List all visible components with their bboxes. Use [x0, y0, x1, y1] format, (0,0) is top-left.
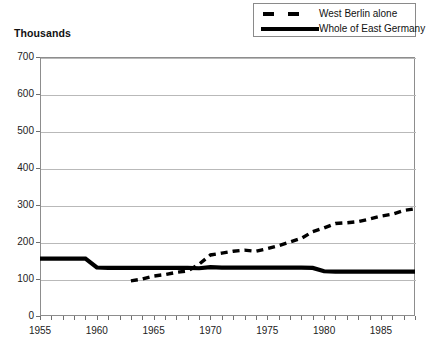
x-tick-minor	[358, 316, 359, 320]
x-tick-minor	[370, 316, 371, 320]
x-tick-minor	[233, 316, 234, 320]
y-tick-label: 600	[0, 88, 34, 99]
x-tick-minor	[40, 316, 41, 320]
x-tick-minor	[381, 316, 382, 320]
x-tick-minor	[210, 316, 211, 320]
chart-container: Thousands West Berlin alone Whole of Eas…	[0, 0, 427, 360]
x-tick-minor	[154, 316, 155, 320]
x-tick-label: 1980	[304, 325, 344, 336]
x-tick-label: 1955	[20, 325, 60, 336]
y-tick-mark	[36, 131, 40, 132]
y-tick-label: 100	[0, 273, 34, 284]
y-axis-unit-label: Thousands	[14, 27, 71, 39]
x-tick-minor	[404, 316, 405, 320]
x-tick-minor	[324, 316, 325, 320]
series-layer	[40, 57, 415, 316]
x-tick-minor	[108, 316, 109, 320]
y-tick-mark	[36, 242, 40, 243]
x-tick-minor	[290, 316, 291, 320]
x-tick-minor	[415, 316, 416, 320]
x-tick-minor	[222, 316, 223, 320]
x-tick-label: 1965	[134, 325, 174, 336]
x-tick-minor	[176, 316, 177, 320]
x-tick-minor	[279, 316, 280, 320]
chart-legend: West Berlin alone Whole of East Germany	[253, 3, 416, 37]
y-tick-mark	[36, 94, 40, 95]
y-tick-mark	[36, 168, 40, 169]
x-tick-minor	[97, 316, 98, 320]
legend-label-east-germany: Whole of East Germany	[319, 22, 425, 35]
x-tick-minor	[188, 316, 189, 320]
solid-line-swatch-icon	[257, 22, 319, 35]
y-tick-label: 700	[0, 51, 34, 62]
x-tick-label: 1970	[190, 325, 230, 336]
y-tick-mark	[36, 279, 40, 280]
x-tick-minor	[267, 316, 268, 320]
y-tick-label: 300	[0, 199, 34, 210]
y-tick-label: 200	[0, 236, 34, 247]
x-tick-minor	[256, 316, 257, 320]
y-tick-mark	[36, 205, 40, 206]
y-tick-label: 500	[0, 125, 34, 136]
x-tick-minor	[392, 316, 393, 320]
x-tick-minor	[131, 316, 132, 320]
legend-item-east-germany: Whole of East Germany	[254, 21, 415, 36]
x-tick-minor	[63, 316, 64, 320]
x-tick-minor	[142, 316, 143, 320]
series-line-east-germany	[40, 259, 415, 272]
x-tick-minor	[85, 316, 86, 320]
legend-item-west-berlin: West Berlin alone	[254, 6, 415, 21]
dashed-line-swatch-icon	[257, 7, 319, 20]
y-tick-label: 400	[0, 162, 34, 173]
x-tick-minor	[313, 316, 314, 320]
y-tick-label: 0	[0, 310, 34, 321]
x-tick-minor	[120, 316, 121, 320]
x-tick-minor	[245, 316, 246, 320]
x-tick-minor	[335, 316, 336, 320]
x-tick-label: 1985	[361, 325, 401, 336]
x-tick-minor	[199, 316, 200, 320]
x-tick-minor	[74, 316, 75, 320]
x-tick-minor	[347, 316, 348, 320]
x-tick-label: 1975	[247, 325, 287, 336]
x-tick-minor	[165, 316, 166, 320]
x-tick-minor	[301, 316, 302, 320]
legend-label-west-berlin: West Berlin alone	[319, 7, 397, 20]
y-tick-mark	[36, 57, 40, 58]
x-tick-label: 1960	[77, 325, 117, 336]
x-tick-minor	[51, 316, 52, 320]
